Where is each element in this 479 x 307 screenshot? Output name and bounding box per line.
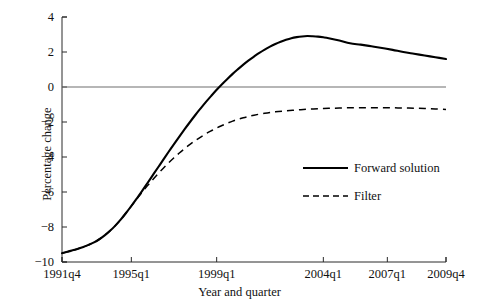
x-axis-line [62,257,446,262]
legend-label-filter: Filter [354,189,381,204]
x-axis-title: Year and quarter [0,285,479,300]
legend-marks [303,168,348,196]
x-tick-label-2: 1999q1 [198,268,236,281]
y-tick-label-1: 2 [20,46,54,59]
chart-figure: 420−2−4−6−8−10 1991q41995q11999q12004q12… [0,0,479,307]
chart-plot-area [0,0,479,307]
legend-label-forward-solution: Forward solution [354,161,440,176]
y-axis-ticks [62,17,67,262]
y-tick-label-2: 0 [20,81,54,94]
x-tick-label-4: 2007q1 [369,268,407,281]
x-tick-label-1: 1995q1 [113,268,151,281]
y-axis-line [62,17,67,262]
y-tick-label-6: −8 [20,221,54,234]
y-axis-title: Percentage change [40,107,55,200]
x-tick-label-0: 1991q4 [43,268,81,281]
x-tick-label-3: 2004q1 [305,268,343,281]
data-series-group [62,36,446,253]
axes-group [62,17,446,262]
x-axis-ticks [62,257,446,262]
x-tick-label-5: 2009q4 [427,268,465,281]
series-line-forward-solution [62,36,446,253]
series-line-filter [62,108,446,254]
y-tick-label-0: 4 [20,11,54,24]
